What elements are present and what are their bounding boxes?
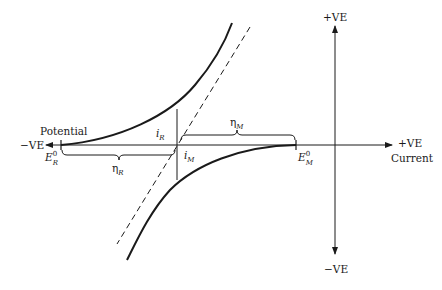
brace-eta-m bbox=[181, 130, 295, 140]
eta-r-label: ηR bbox=[112, 163, 124, 177]
vertical-top-label: +VE bbox=[323, 12, 347, 23]
e-m-zero-label: E 0 M bbox=[298, 152, 314, 168]
i-r-label: iR bbox=[156, 128, 165, 142]
potential-caption: Potential bbox=[40, 126, 87, 137]
lower-curve bbox=[127, 145, 296, 260]
brace-eta-r bbox=[62, 150, 175, 160]
horizontal-right-label: +VE bbox=[398, 138, 422, 149]
evans-diagram: −VE Potential +VE Current +VE −VE E 0 R … bbox=[0, 0, 442, 290]
current-caption: Current bbox=[391, 153, 433, 164]
horizontal-left-label: −VE bbox=[20, 140, 44, 151]
i-m-label: iM bbox=[184, 150, 195, 164]
eta-m-label: ηM bbox=[230, 117, 243, 131]
vertical-bottom-label: −VE bbox=[324, 264, 348, 275]
diagram-graphics bbox=[0, 0, 442, 290]
e-r-zero-label: E 0 R bbox=[45, 152, 60, 168]
